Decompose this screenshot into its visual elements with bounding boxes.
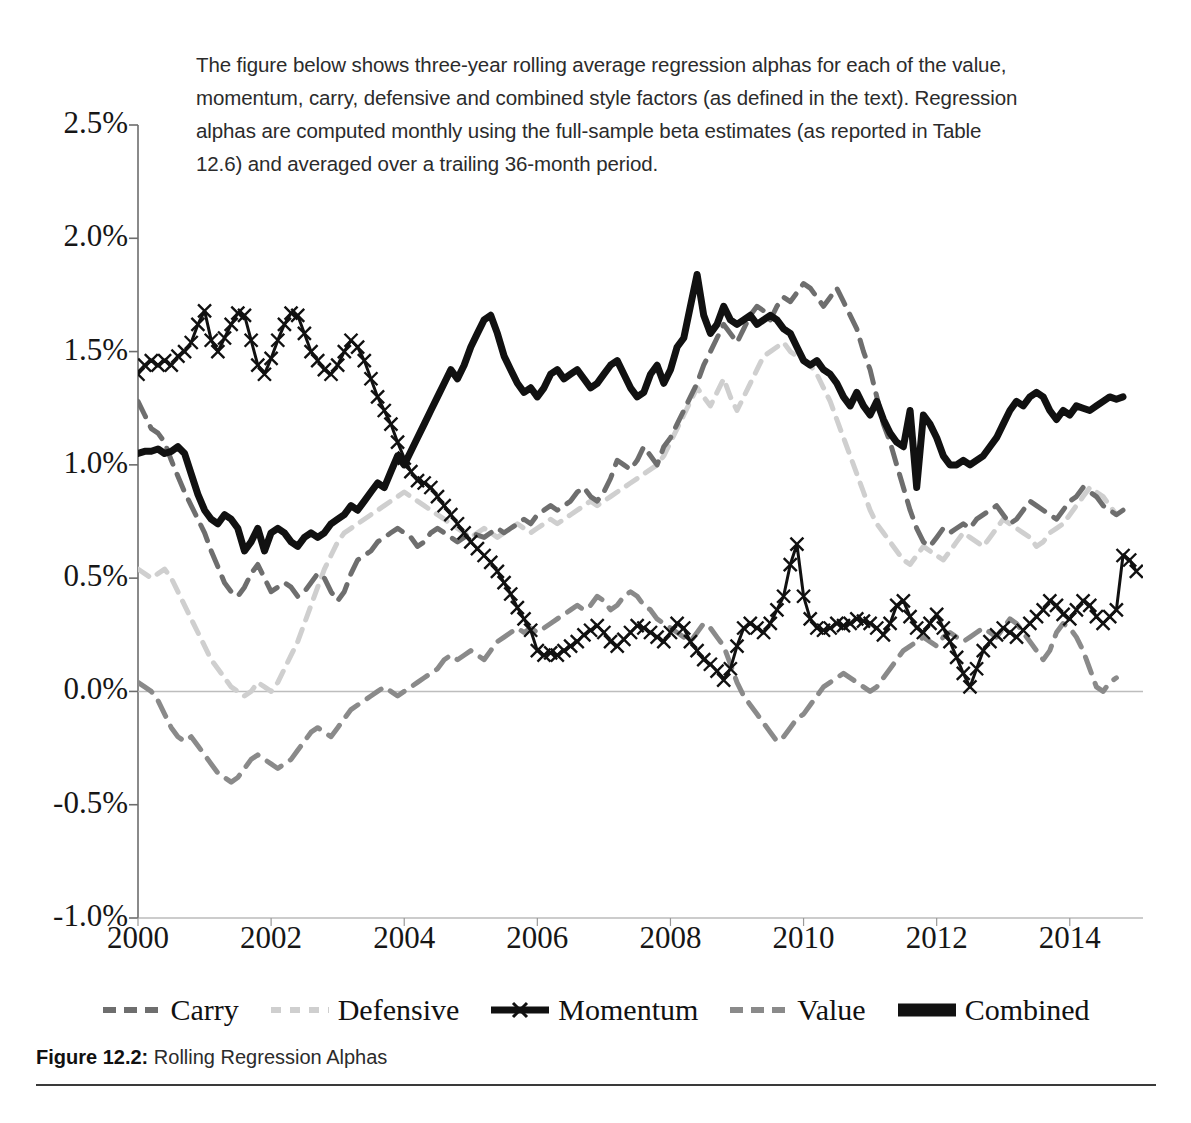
x-tick-label: 2014 xyxy=(1015,920,1125,956)
chart-legend: CarryDefensiveMomentumValueCombined xyxy=(0,988,1191,1032)
y-tick-label: 2.0% xyxy=(8,218,128,254)
chart-axes xyxy=(129,125,1143,926)
figure-caption: Figure 12.2: Rolling Regression Alphas xyxy=(36,1046,1156,1069)
chart-plot xyxy=(0,100,1191,980)
y-tick-label: -0.5% xyxy=(8,785,128,821)
caption-divider xyxy=(36,1084,1156,1086)
y-tick-label: 1.5% xyxy=(8,332,128,368)
y-tick-label: 1.0% xyxy=(8,445,128,481)
legend-swatch-value-icon xyxy=(728,999,790,1021)
legend-item-defensive[interactable]: Defensive xyxy=(269,993,460,1027)
y-tick-label: 0.5% xyxy=(8,558,128,594)
y-tick-label: 0.0% xyxy=(8,671,128,707)
legend-swatch-carry-icon xyxy=(101,999,163,1021)
legend-label: Carry xyxy=(170,993,238,1027)
y-tick-label: 2.5% xyxy=(8,105,128,141)
legend-swatch-combined-icon xyxy=(896,999,958,1021)
legend-swatch-defensive-icon xyxy=(269,999,331,1021)
figure-caption-label: Figure 12.2: xyxy=(36,1046,148,1068)
legend-label: Defensive xyxy=(338,993,460,1027)
legend-swatch-momentum-icon xyxy=(489,999,551,1021)
series-combined xyxy=(138,275,1123,552)
legend-label: Value xyxy=(797,993,865,1027)
legend-item-combined[interactable]: Combined xyxy=(896,993,1090,1027)
legend-label: Momentum xyxy=(558,993,698,1027)
figure-caption-title: Rolling Regression Alphas xyxy=(154,1046,387,1068)
legend-label: Combined xyxy=(965,993,1090,1027)
legend-item-value[interactable]: Value xyxy=(728,993,865,1027)
chart: 2.5%2.0%1.5%1.0%0.5%0.0%-0.5%-1.0% 20002… xyxy=(0,100,1191,980)
chart-series xyxy=(132,275,1143,783)
x-tick-label: 2004 xyxy=(349,920,459,956)
x-tick-label: 2012 xyxy=(882,920,992,956)
x-tick-label: 2008 xyxy=(615,920,725,956)
x-tick-label: 2002 xyxy=(216,920,326,956)
series-carry xyxy=(138,284,1123,601)
legend-item-carry[interactable]: Carry xyxy=(101,993,238,1027)
legend-item-momentum[interactable]: Momentum xyxy=(489,993,698,1027)
x-tick-label: 2000 xyxy=(83,920,193,956)
x-tick-label: 2006 xyxy=(482,920,592,956)
x-tick-label: 2010 xyxy=(749,920,859,956)
